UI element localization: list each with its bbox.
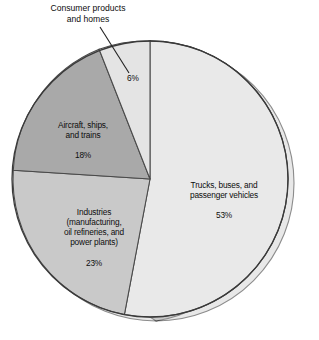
slice-label-trucks-text: Trucks, buses, andpassenger vehicles [190,180,258,200]
slice-label-industries-text: Industries(manufacturing,oil refineries,… [64,207,124,247]
slice-value-trucks: 53% [216,210,232,220]
slice-label-aircraft: Aircraft, ships,and trains 18% [36,110,130,160]
slice-value-aircraft: 18% [75,150,91,160]
slice-label-trucks: Trucks, buses, andpassenger vehicles 53% [168,170,280,220]
slice-label-industries: Industries(manufacturing,oil refineries,… [42,197,146,268]
slice-label-aircraft-text: Aircraft, ships,and trains [58,120,108,140]
slice-label-consumer: Consumer productsand homes [18,3,158,24]
slice-value-industries: 23% [86,258,102,268]
slice-value-consumer: 6% [118,73,148,83]
pie-chart-figure: Trucks, buses, andpassenger vehicles 53%… [0,0,319,340]
